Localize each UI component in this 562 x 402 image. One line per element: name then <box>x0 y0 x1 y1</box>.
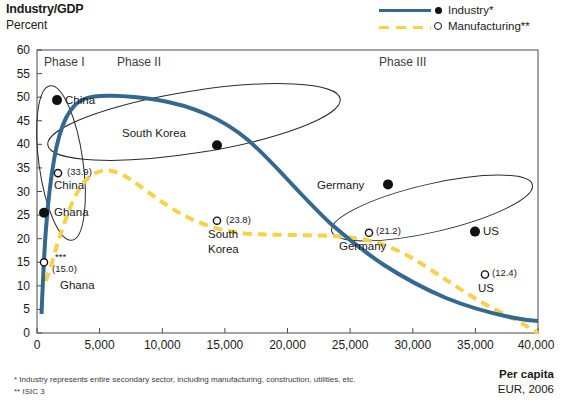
y-tick-20: 20 <box>2 233 30 245</box>
point-us-industry <box>470 227 480 237</box>
plot-frame <box>37 50 538 333</box>
point-ghana-mfg <box>40 259 47 266</box>
manufacturing-series-line <box>46 170 538 333</box>
y-axis-ticks <box>37 50 42 333</box>
legend-label-manufacturing: Manufacturing** <box>445 20 530 32</box>
label-germany-mfg-name: Germany <box>339 240 386 253</box>
x-axis-ticks <box>37 328 538 333</box>
label-us-mfg-value: (12.4) <box>492 267 517 280</box>
x-tick-25000: 25,000 <box>332 339 369 351</box>
point-us-mfg <box>481 271 488 278</box>
label-ghana-mfg-name: Ghana <box>60 279 95 292</box>
y-tick-25: 25 <box>2 209 30 221</box>
y-tick-15: 15 <box>2 256 30 268</box>
label-germany-mfg-value: (21.2) <box>376 225 401 238</box>
y-tick-55: 55 <box>2 68 30 80</box>
point-germany-mfg <box>365 229 372 236</box>
x-tick-20000: 20,000 <box>269 339 306 351</box>
footnote-2: ** ISIC 3 <box>14 387 45 397</box>
point-south-korea-industry <box>212 140 222 150</box>
label-south-korea-mfg-name-1: South <box>208 228 238 241</box>
y-tick-40: 40 <box>2 138 30 150</box>
phase-ellipses <box>28 68 537 254</box>
dot-hollow-icon <box>431 22 445 30</box>
page-title: Industry/GDP <box>6 2 83 16</box>
x-tick-10000: 10,000 <box>144 339 181 351</box>
label-ghana-mfg-value: (15.0) <box>52 263 77 276</box>
legend-item-industry[interactable]: Industry* <box>379 2 554 18</box>
label-south-korea-industry: South Korea <box>122 127 186 140</box>
legend-item-manufacturing[interactable]: Manufacturing** <box>379 18 554 34</box>
label-ghana-industry: Ghana <box>54 206 89 219</box>
x-axis-title-line2: EUR, 2006 <box>498 383 554 395</box>
y-tick-60: 60 <box>2 44 30 56</box>
legend-label-industry: Industry* <box>445 4 493 16</box>
point-china-industry <box>52 95 62 105</box>
dot-filled-icon <box>431 7 445 14</box>
x-tick-15000: 15,000 <box>207 339 244 351</box>
x-tick-30000: 30,000 <box>394 339 431 351</box>
x-tick-40000: 40,000 <box>518 339 555 351</box>
chart-legend: Industry* Manufacturing** <box>379 2 554 34</box>
y-tick-35: 35 <box>2 162 30 174</box>
y-tick-45: 45 <box>2 115 30 127</box>
label-south-korea-mfg-name-2: Korea <box>208 243 239 256</box>
industry-series-line <box>42 96 539 321</box>
y-tick-0: 0 <box>2 327 30 339</box>
y-tick-5: 5 <box>2 303 30 315</box>
phase-2-ellipse <box>43 68 345 176</box>
label-china-mfg-name: China <box>54 179 84 192</box>
phase-1-ellipse <box>28 83 93 244</box>
label-us-mfg-name: US <box>478 282 494 295</box>
phase-label-1: Phase I <box>44 55 85 69</box>
phase-label-3: Phase III <box>379 55 426 69</box>
point-south-korea-mfg <box>213 217 220 224</box>
footnote-1: * Industry represents entire secondary s… <box>14 375 356 385</box>
label-us-industry: US <box>483 225 499 238</box>
solid-line-icon <box>379 5 431 15</box>
dashed-line-icon <box>379 21 431 31</box>
y-tick-50: 50 <box>2 91 30 103</box>
label-china-mfg-value: (33.9) <box>67 166 92 179</box>
point-china-mfg <box>54 170 61 177</box>
x-tick-5000: 5,000 <box>85 339 115 351</box>
y-axis-unit-label: Percent <box>6 18 47 32</box>
x-tick-35000: 35,000 <box>457 339 494 351</box>
y-tick-10: 10 <box>2 280 30 292</box>
label-ghana-mfg-stars: *** <box>55 251 66 264</box>
label-germany-industry: Germany <box>317 179 364 192</box>
point-ghana-industry <box>39 208 49 218</box>
label-china-industry: China <box>65 94 95 107</box>
y-tick-30: 30 <box>2 186 30 198</box>
label-south-korea-mfg-value: (23.8) <box>226 214 251 227</box>
x-axis-title-line1: Per capita <box>499 368 554 380</box>
manufacturing-data-points <box>40 170 488 279</box>
x-tick-0: 0 <box>34 339 41 351</box>
industry-data-points <box>39 95 480 237</box>
point-germany-industry <box>383 179 393 189</box>
phase-label-2: Phase II <box>117 55 161 69</box>
